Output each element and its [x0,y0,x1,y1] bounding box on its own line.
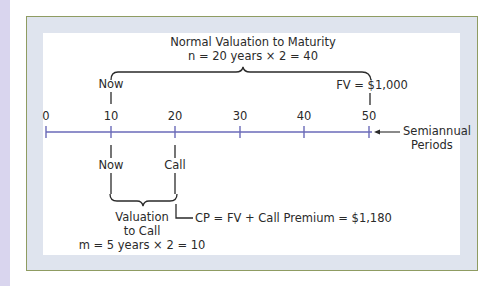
tick-label-40: 40 [297,110,312,123]
axis-unit-label-line2: Periods [411,139,453,152]
tick-label-30: 30 [233,110,248,123]
valuation-to-call-line1: Valuation [115,211,169,224]
maturity-title: Normal Valuation to Maturity [170,36,336,49]
now-top-label: Now [98,78,123,91]
call-price-label: CP = FV + Call Premium = $1,180 [195,212,392,225]
maturity-formula: n = 20 years × 2 = 40 [188,50,318,63]
tick-label-10: 10 [104,110,119,123]
axis-unit-label-line1: Semiannual [403,125,471,138]
now-bottom-label: Now [98,159,123,172]
cp-connector [176,204,193,218]
call-label: Call [164,159,185,172]
call-brace [110,194,177,206]
tick-label-0: 0 [42,110,49,123]
valuation-to-call-line2: to Call [124,225,161,238]
fv-label: FV = $1,000 [336,79,408,92]
tick-label-20: 20 [168,110,183,123]
call-period-formula: m = 5 years × 2 = 10 [79,239,206,252]
maturity-brace [111,67,371,80]
tick-label-50: 50 [362,110,377,123]
periods-arrow-head-icon [374,130,380,135]
